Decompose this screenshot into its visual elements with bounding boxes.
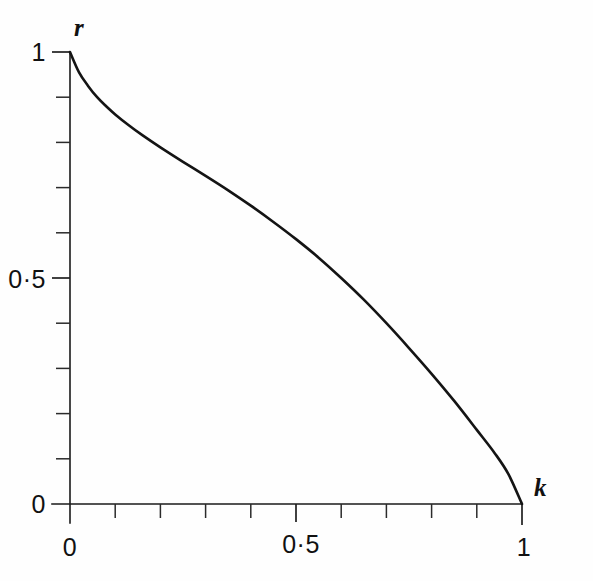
- y-tick-label-1: 1: [32, 38, 46, 66]
- y-axis-name: r: [74, 14, 84, 41]
- x-tick-label-0: 0: [63, 533, 77, 561]
- y-tick-label-0: 0: [32, 490, 46, 518]
- line-chart: r k 1 0·5 0 0 0·5 1: [0, 0, 593, 581]
- y-tick-label-0.5: 0·5: [8, 265, 46, 293]
- x-tick-label-0.5: 0·5: [282, 530, 320, 558]
- figure-container: r k 1 0·5 0 0 0·5 1: [0, 0, 593, 581]
- x-axis-name: k: [534, 474, 547, 501]
- x-tick-label-1: 1: [517, 533, 531, 561]
- curve-r-of-k: [70, 52, 522, 504]
